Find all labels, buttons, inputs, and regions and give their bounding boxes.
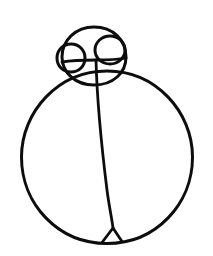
sketch-canvas: A freehand black ink line drawing consis… [0,0,213,256]
sketch-drawing [0,0,213,256]
canvas-background [0,0,213,256]
